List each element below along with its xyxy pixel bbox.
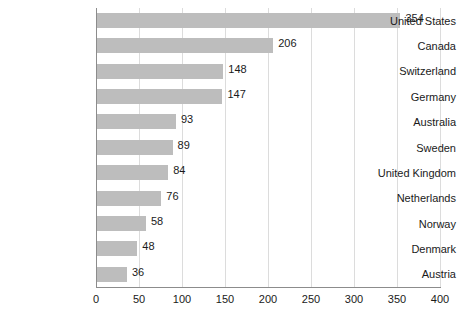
x-tick-label: 300 [332, 292, 376, 306]
category-label: Denmark [364, 242, 456, 256]
x-tick-label: 150 [203, 292, 247, 306]
bar[interactable] [96, 191, 161, 206]
x-tick-label: 50 [117, 292, 161, 306]
category-label: United States [364, 14, 456, 28]
bar-value-label: 36 [132, 265, 144, 280]
bar-value-label: 148 [228, 62, 246, 77]
bar-value-label: 58 [151, 214, 163, 229]
category-label: United Kingdom [364, 166, 456, 180]
bar[interactable] [96, 13, 400, 28]
bar[interactable] [96, 140, 173, 155]
x-tick-label: 250 [289, 292, 333, 306]
x-axis-line [96, 287, 441, 288]
category-label: Sweden [364, 141, 456, 155]
category-label: Australia [364, 115, 456, 129]
bar[interactable] [96, 241, 137, 256]
bar-chart: 35420614814793898476584836 United States… [0, 0, 461, 320]
bar-value-label: 84 [173, 163, 185, 178]
bar[interactable] [96, 267, 127, 282]
bar[interactable] [96, 216, 146, 231]
x-tick-label: 350 [375, 292, 419, 306]
bar-value-label: 89 [178, 138, 190, 153]
bar[interactable] [96, 165, 168, 180]
bar-value-label: 93 [181, 112, 193, 127]
bar[interactable] [96, 38, 273, 53]
category-label: Switzerland [364, 64, 456, 78]
x-tick-label: 0 [74, 292, 118, 306]
x-tick-label: 100 [160, 292, 204, 306]
bar[interactable] [96, 89, 222, 104]
bar-value-label: 48 [142, 239, 154, 254]
bar-value-label: 147 [227, 87, 245, 102]
bar-value-label: 76 [166, 189, 178, 204]
bar-value-label: 206 [278, 36, 296, 51]
bar[interactable] [96, 114, 176, 129]
y-axis-line [96, 8, 97, 287]
category-label: Netherlands [364, 191, 456, 205]
bar[interactable] [96, 64, 223, 79]
x-tick-label: 200 [246, 292, 290, 306]
x-tick-label: 400 [418, 292, 461, 306]
category-label: Norway [364, 217, 456, 231]
category-label: Canada [364, 39, 456, 53]
category-label: Austria [364, 267, 456, 281]
category-label: Germany [364, 90, 456, 104]
